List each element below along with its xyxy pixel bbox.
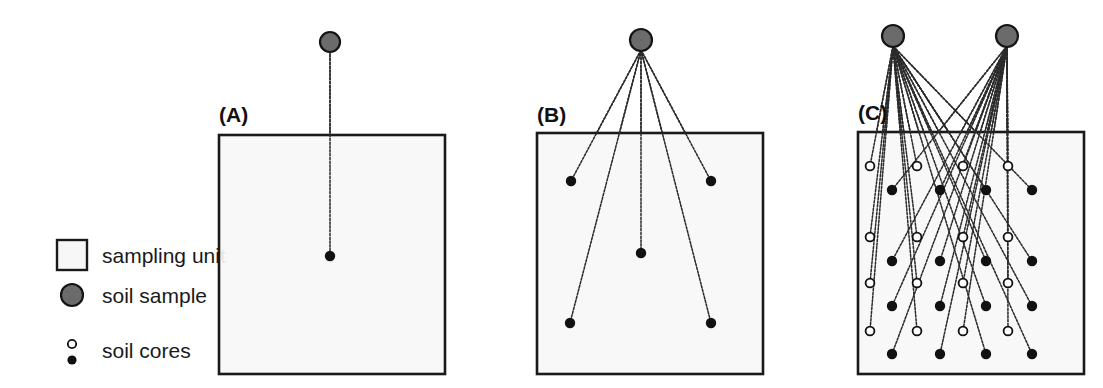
soil-core-filled[interactable] — [981, 256, 991, 266]
soil-core-filled[interactable] — [935, 301, 945, 311]
soil-core-filled[interactable] — [1027, 301, 1037, 311]
soil-core-filled[interactable] — [935, 256, 945, 266]
legend-label-sampling-unit: sampling unit — [102, 244, 226, 267]
soil-core-open[interactable] — [913, 327, 922, 336]
panel-label-C: (C) — [858, 101, 887, 124]
soil-core-open[interactable] — [913, 162, 922, 171]
soil-core-open[interactable] — [959, 327, 968, 336]
legend: sampling unit soil sample soil cores — [57, 240, 226, 365]
soil-core-filled[interactable] — [935, 185, 945, 195]
soil-core-filled[interactable] — [1027, 185, 1037, 195]
soil-core-filled[interactable] — [566, 176, 576, 186]
soil-core-open[interactable] — [1004, 327, 1013, 336]
soil-sample-swatch — [61, 284, 83, 306]
soil-sample-marker[interactable] — [320, 32, 340, 52]
legend-item-soil-sample: soil sample — [61, 284, 207, 307]
soil-core-filled[interactable] — [887, 349, 897, 359]
soil-core-open[interactable] — [959, 279, 968, 288]
panels-group: (A)(B)(C) — [219, 25, 1084, 374]
soil-sampling-diagram: sampling unit soil sample soil cores (A)… — [0, 0, 1103, 388]
soil-core-open[interactable] — [1004, 233, 1013, 242]
soil-sample-marker[interactable] — [996, 25, 1018, 47]
soil-core-filled[interactable] — [981, 185, 991, 195]
soil-core-open[interactable] — [866, 162, 875, 171]
panel-C: (C) — [858, 25, 1084, 374]
legend-item-soil-cores: soil cores — [67, 339, 190, 365]
soil-core-filled-swatch — [67, 355, 76, 364]
soil-core-open-swatch — [68, 340, 76, 348]
legend-item-sampling-unit: sampling unit — [57, 240, 226, 270]
soil-core-filled[interactable] — [981, 349, 991, 359]
sampling-unit-swatch — [57, 240, 87, 270]
soil-core-filled[interactable] — [981, 301, 991, 311]
sampling-unit-box-C[interactable] — [858, 132, 1084, 374]
soil-core-filled[interactable] — [887, 301, 897, 311]
soil-core-open[interactable] — [1004, 279, 1013, 288]
soil-core-filled[interactable] — [636, 248, 646, 258]
legend-label-soil-cores: soil cores — [102, 339, 191, 362]
soil-core-open[interactable] — [866, 233, 875, 242]
soil-sample-marker[interactable] — [630, 29, 652, 51]
soil-core-open[interactable] — [959, 233, 968, 242]
soil-core-open[interactable] — [866, 279, 875, 288]
soil-core-open[interactable] — [913, 233, 922, 242]
soil-core-open[interactable] — [866, 327, 875, 336]
soil-core-filled[interactable] — [706, 318, 716, 328]
soil-core-filled[interactable] — [935, 349, 945, 359]
panel-label-A: (A) — [219, 103, 248, 126]
soil-core-filled[interactable] — [887, 185, 897, 195]
panel-B: (B) — [537, 29, 763, 374]
figure-canvas: sampling unit soil sample soil cores (A)… — [0, 0, 1103, 388]
soil-core-filled[interactable] — [325, 251, 335, 261]
soil-core-filled[interactable] — [706, 176, 716, 186]
soil-core-filled[interactable] — [1027, 256, 1037, 266]
soil-core-filled[interactable] — [565, 318, 575, 328]
soil-core-filled[interactable] — [887, 256, 897, 266]
soil-core-open[interactable] — [1004, 162, 1013, 171]
panel-label-B: (B) — [537, 103, 566, 126]
legend-label-soil-sample: soil sample — [102, 284, 207, 307]
soil-core-open[interactable] — [959, 162, 968, 171]
soil-core-open[interactable] — [913, 279, 922, 288]
panel-A: (A) — [219, 32, 445, 374]
sampling-unit-box-B[interactable] — [537, 133, 763, 374]
soil-sample-marker[interactable] — [882, 25, 904, 47]
soil-core-filled[interactable] — [1027, 349, 1037, 359]
